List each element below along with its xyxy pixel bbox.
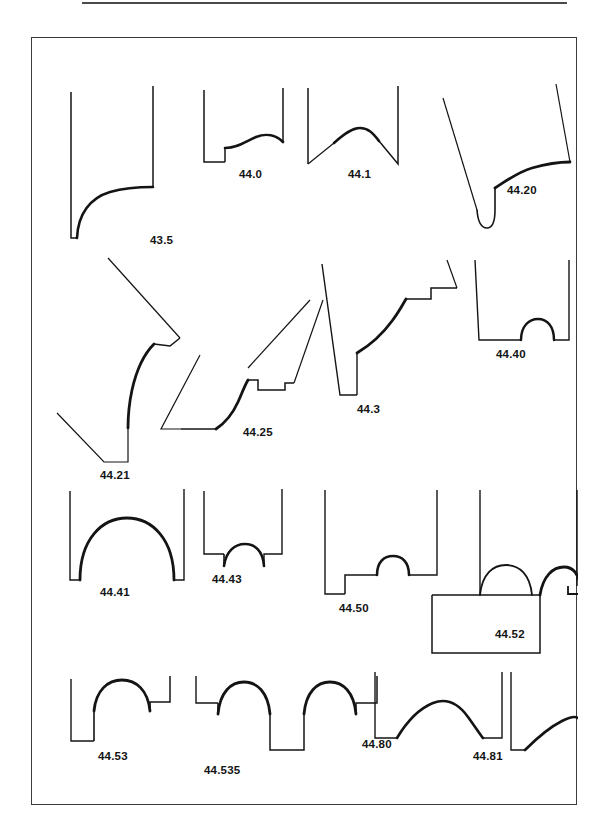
profile-44-40-outline-right	[554, 260, 569, 340]
profile-44-535	[196, 676, 377, 750]
profile-44-81-outline-left	[511, 672, 525, 750]
profile-44-41-bead	[80, 518, 174, 580]
profile-44-3-step	[406, 288, 457, 299]
profile-44-535-bead-left	[218, 682, 270, 714]
profile-44-50-bead	[377, 556, 409, 575]
profile-44-20-outline-right	[556, 84, 570, 162]
profile-label-44-20: 44.20	[507, 184, 537, 196]
profile-43-5-outline-left	[71, 92, 77, 238]
profile-label-44-0: 44.0	[239, 168, 262, 180]
profile-44-25-curve	[216, 380, 248, 429]
profile-44-25-slope-top-left	[248, 300, 310, 368]
profile-44-0-curve	[225, 135, 283, 148]
profile-44-50	[325, 490, 437, 594]
profile-44-40-bead	[521, 319, 554, 340]
profile-44-1-hump	[334, 128, 379, 143]
profile-label-44-81: 44.81	[473, 750, 503, 762]
profile-44-80-outline-right	[483, 672, 502, 738]
profile-44-81-crest	[525, 717, 578, 750]
profile-44-20-slope-left	[443, 98, 477, 210]
profile-label-44-535: 44.535	[204, 764, 241, 776]
profile-44-1	[308, 86, 398, 164]
profile-44-53	[71, 676, 170, 741]
profile-44-40	[475, 260, 569, 340]
profile-44-0-outline-left	[204, 90, 225, 162]
profile-44-21-nose	[154, 338, 180, 346]
profile-44-3	[322, 260, 457, 395]
profile-44-25-fillet-step	[248, 380, 294, 390]
profile-44-53-step-right	[150, 676, 170, 711]
profile-44-80-outline-left	[375, 672, 397, 738]
profile-44-43-outline-right	[264, 489, 282, 566]
profile-44-20	[443, 84, 570, 228]
profile-label-44-41: 44.41	[100, 586, 130, 598]
profile-label-44-1: 44.1	[348, 168, 372, 180]
profile-44-21-outline-bottom	[57, 413, 128, 462]
profile-43-5	[71, 86, 153, 238]
profile-44-20-groove	[477, 188, 495, 228]
profile-44-80	[375, 672, 502, 738]
profile-44-3-curve	[357, 299, 406, 353]
profile-44-535-step-right	[356, 676, 377, 714]
profile-label-44-21: 44.21	[100, 469, 130, 481]
profile-44-1-outline-right	[379, 86, 398, 164]
profile-44-50-step-left	[345, 575, 377, 594]
profile-44-0	[204, 88, 283, 162]
profile-43-5-curve	[77, 187, 153, 238]
profile-44-41	[70, 489, 184, 580]
profile-44-21	[57, 258, 180, 462]
profile-label-44-43: 44.43	[212, 573, 242, 585]
profile-44-25-slope-bottom-left	[161, 355, 200, 429]
profile-44-40-outline-left	[475, 260, 521, 340]
profile-44-25	[161, 300, 323, 429]
profile-label-44-52: 44.52	[495, 628, 525, 640]
profile-44-535-channel	[270, 714, 304, 750]
profile-44-80-hump	[397, 701, 483, 738]
profile-44-50-outline-left	[325, 490, 345, 594]
profile-44-52-arch-left	[480, 565, 532, 595]
profile-44-52-notch	[568, 586, 578, 594]
profile-label-44-25: 44.25	[243, 426, 273, 438]
profile-label-43-5: 43.5	[150, 234, 174, 246]
plate-frame: 43.5 44.0 44.1 44.20	[31, 37, 577, 805]
profile-44-52-block	[432, 595, 540, 653]
profile-44-1-slope-left	[308, 143, 334, 164]
profile-44-41-outline-right	[174, 489, 184, 580]
profile-44-21-curve	[128, 344, 154, 428]
profile-label-44-53: 44.53	[98, 750, 128, 762]
profile-44-52-arch-right	[540, 567, 578, 595]
profile-44-43-outline-left	[204, 491, 224, 554]
profile-44-535-bead-right	[304, 682, 356, 714]
profile-44-81	[511, 672, 578, 753]
profile-44-53-bead	[94, 680, 150, 711]
profile-label-44-3: 44.3	[357, 403, 380, 415]
profile-44-3-outline-right	[447, 260, 457, 288]
profile-44-41-outline-left	[70, 491, 80, 580]
profile-label-44-50: 44.50	[339, 602, 369, 614]
profile-label-44-40: 44.40	[496, 348, 526, 360]
profile-44-3-outline-left	[322, 264, 357, 395]
header-rule	[82, 2, 567, 4]
profile-44-43	[204, 489, 282, 566]
profile-44-43-bead	[224, 544, 264, 566]
profile-44-50-outline-right	[409, 490, 437, 575]
profile-44-53-outline-left	[71, 679, 94, 741]
profile-44-21-slope-top	[108, 258, 180, 338]
profile-plate-drawing: 43.5 44.0 44.1 44.20	[32, 38, 578, 806]
profile-44-535-outline-left	[196, 676, 218, 703]
profile-label-44-80: 44.80	[362, 738, 392, 750]
